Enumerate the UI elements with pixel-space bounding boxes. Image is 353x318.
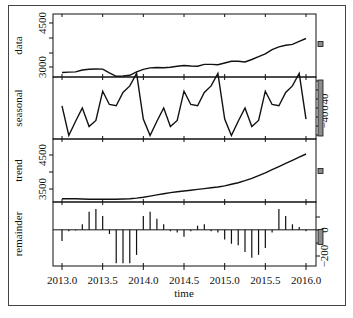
y-axis-label: remainder	[12, 211, 24, 256]
panel-seasonal: 400−40seasonal	[12, 74, 330, 140]
y-tick-label: 3000	[36, 56, 48, 79]
range-bar	[318, 230, 323, 245]
y-axis-label: trend	[12, 159, 24, 182]
y-tick-label: 3500	[36, 178, 48, 201]
y-tick-label: 4500	[36, 12, 48, 35]
y-tick-label: 4500	[36, 144, 48, 167]
x-tick-label: 2013.5	[88, 274, 119, 286]
x-tick-label: 2015.5	[250, 274, 281, 286]
x-axis: 2013.02013.52014.02014.52015.02015.52016…	[47, 266, 322, 299]
y-axis-label: seasonal	[12, 89, 24, 126]
y-tick-label: −200	[318, 244, 330, 267]
data-series	[62, 39, 306, 77]
panel-trend: 35004500trend	[12, 139, 323, 202]
range-bar	[318, 42, 323, 47]
panel-data: 30004500data	[12, 12, 323, 79]
x-tick-label: 2014.5	[169, 274, 200, 286]
x-tick-label: 2013.0	[47, 274, 78, 286]
trend-series	[62, 154, 306, 199]
x-tick-label: 2015.0	[210, 274, 241, 286]
range-bar	[318, 80, 323, 136]
x-tick-label: 2014.0	[128, 274, 159, 286]
seasonal-series	[62, 74, 306, 136]
range-bar	[318, 169, 323, 174]
x-tick-label: 2016.0	[291, 274, 322, 286]
panel-remainder: 0−200remainder	[12, 202, 330, 267]
stl-decomposition-chart: 30004500data400−40seasonal35004500trend0…	[0, 0, 353, 318]
y-axis-label: data	[12, 36, 24, 54]
x-axis-title: time	[174, 287, 194, 299]
